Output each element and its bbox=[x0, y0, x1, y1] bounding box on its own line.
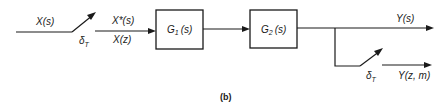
arrowhead-icon bbox=[242, 26, 250, 32]
sampler-2-label: δT bbox=[366, 70, 377, 83]
sampled-label-bottom: X(z) bbox=[112, 34, 131, 45]
branch-line bbox=[335, 28, 360, 66]
arrowhead-icon bbox=[426, 25, 434, 31]
block-g2 bbox=[250, 10, 297, 48]
arrowhead-icon bbox=[148, 28, 156, 34]
input-label: X(s) bbox=[35, 16, 54, 27]
sampled-output-label: Y(z, m) bbox=[398, 70, 430, 81]
sampler-switch-1 bbox=[72, 12, 96, 32]
block-diagram: X(s) δT X*(s) X(z) G1(s) G2(s) Y(s) δT Y… bbox=[0, 0, 448, 107]
sampled-label-top: X*(s) bbox=[111, 15, 134, 26]
output-label: Y(s) bbox=[396, 13, 414, 24]
figure-caption: (b) bbox=[220, 92, 232, 102]
sampler-switch-2 bbox=[360, 48, 383, 66]
arrowhead-icon bbox=[424, 62, 432, 68]
sampler-1-label: δT bbox=[79, 35, 90, 48]
block-g1 bbox=[156, 10, 203, 49]
